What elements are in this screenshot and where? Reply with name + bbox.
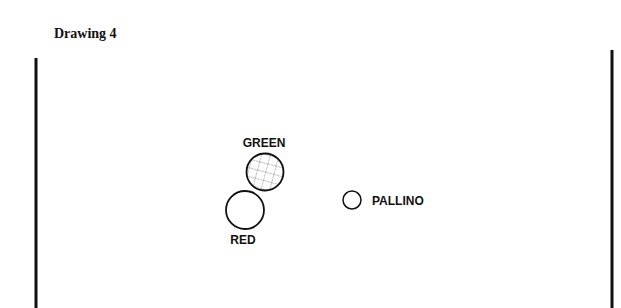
green-ball bbox=[247, 154, 284, 191]
court-diagram: GREEN RED PALLINO bbox=[0, 0, 621, 308]
red-label: RED bbox=[230, 233, 256, 247]
pallino-ball bbox=[343, 191, 361, 209]
green-label: GREEN bbox=[243, 136, 286, 150]
pallino-label: PALLINO bbox=[372, 194, 424, 208]
red-ball bbox=[226, 191, 264, 229]
